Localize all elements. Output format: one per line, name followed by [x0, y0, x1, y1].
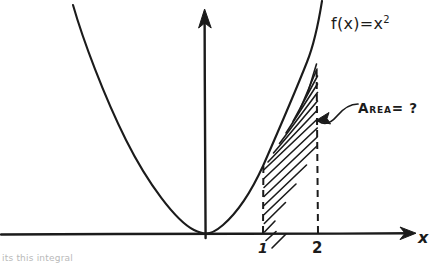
parabola-curve — [73, 1, 322, 234]
margin-note-text: its this integral — [2, 253, 73, 263]
hand-drawn-integral-sketch: f(x)=x2 Area= ? 1 2 x its this integral — [0, 0, 435, 265]
x-tick-label-1: 1 — [258, 240, 268, 256]
sketch-canvas — [0, 0, 435, 265]
x-axis-label: x — [418, 228, 428, 247]
function-label-exponent: 2 — [383, 14, 390, 25]
area-question-label: Area= ? — [358, 100, 418, 116]
x-tick-label-2: 2 — [312, 239, 322, 257]
function-label-text: f(x)=x — [331, 14, 383, 33]
area-hatching — [264, 64, 318, 248]
y-axis-line — [205, 14, 206, 238]
area-arrowhead — [316, 113, 331, 125]
function-label: f(x)=x2 — [331, 14, 390, 33]
